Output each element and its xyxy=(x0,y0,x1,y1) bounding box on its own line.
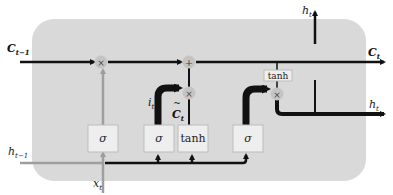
h-out-right-label: ht xyxy=(369,98,379,113)
forget-multiply-op: × xyxy=(95,56,108,69)
h-prev-label: ht−1 xyxy=(8,145,28,160)
candidate-gate: tanh xyxy=(178,125,208,152)
svg-text:+: + xyxy=(185,57,193,68)
svg-text:~: ~ xyxy=(173,98,181,108)
svg-text:σ: σ xyxy=(155,132,163,145)
svg-text:σ: σ xyxy=(99,132,107,145)
svg-text:×: × xyxy=(273,90,281,100)
svg-text:×: × xyxy=(185,89,193,99)
add-op: + xyxy=(183,56,196,69)
c-prev-label: Ct−1 xyxy=(7,42,30,57)
forget-gate: σ xyxy=(88,125,118,152)
output-tanh-box: tanh xyxy=(264,70,292,81)
input-multiply-op: × xyxy=(183,87,196,100)
svg-text:tanh: tanh xyxy=(180,132,205,145)
output-gate: σ xyxy=(233,125,263,152)
h-out-top-label: ht xyxy=(302,4,312,19)
svg-text:tanh: tanh xyxy=(268,71,289,81)
input-gate: σ xyxy=(144,125,174,152)
lstm-diagram: σ σ tanh σ tanh × + × × Ct−1 Ct ht ht ht… xyxy=(0,0,393,195)
output-multiply-op: × xyxy=(271,88,284,101)
svg-text:×: × xyxy=(97,58,105,68)
svg-text:σ: σ xyxy=(244,132,252,145)
c-next-label: Ct xyxy=(368,46,381,61)
